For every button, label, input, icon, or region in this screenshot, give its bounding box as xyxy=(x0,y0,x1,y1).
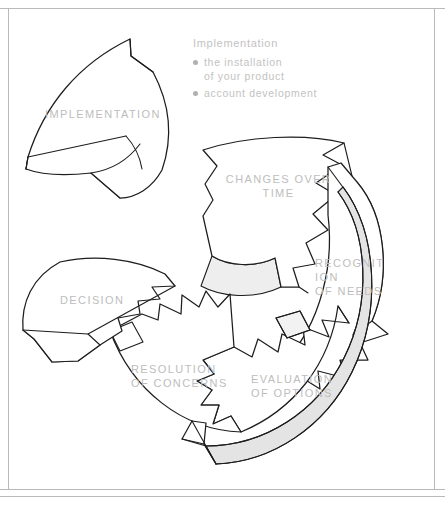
diagram-page: IMPLEMENTATION CHANGES OVER TIME RECOGNI… xyxy=(0,0,445,505)
callout-item-text: account development xyxy=(204,86,317,100)
callout-title: Implementation xyxy=(193,36,353,51)
bullet-icon xyxy=(193,60,198,65)
segment-shape-implementation xyxy=(26,39,168,198)
callout-list-item: the installation of your product xyxy=(193,55,353,83)
callout-item-text: the installation of your product xyxy=(204,55,285,83)
bullet-icon xyxy=(193,91,198,96)
implementation-callout: Implementation the installation of your … xyxy=(193,36,353,103)
callout-list-item: account development xyxy=(193,86,353,100)
